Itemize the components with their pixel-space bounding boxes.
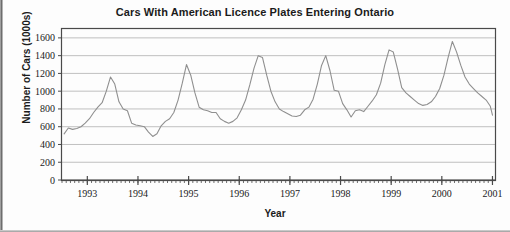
- gridlines-group: [62, 38, 495, 162]
- y-tick-label: 1600: [35, 32, 55, 43]
- y-tick-label: 600: [40, 121, 55, 132]
- x-tick-label: 1998: [331, 188, 351, 199]
- screenshot-root: Cars With American Licence Plates Enteri…: [0, 0, 510, 232]
- x-tick-label: 1994: [128, 188, 148, 199]
- y-tick-label: 1000: [35, 86, 55, 97]
- x-tick-label: 1996: [229, 188, 249, 199]
- y-tick-label: 200: [40, 157, 55, 168]
- plot-area: 02004006008001000120014001600 1993199419…: [0, 0, 510, 232]
- x-tick-label: 1995: [179, 188, 199, 199]
- x-tick-label: 1997: [280, 188, 300, 199]
- y-tick-label: 1400: [35, 50, 55, 61]
- chart-figure: Number of Cars (1000s) Year 020040060080…: [0, 0, 510, 232]
- x-axis-ticks: 199319941995199619971998199920002001: [62, 176, 502, 199]
- x-tick-label: 1999: [381, 188, 401, 199]
- y-tick-label: 800: [40, 103, 55, 114]
- y-axis-ticks: 02004006008001000120014001600: [35, 32, 62, 185]
- x-tick-label: 1993: [77, 188, 97, 199]
- y-tick-label: 1200: [35, 68, 55, 79]
- plot-frame-border: [62, 29, 496, 181]
- y-tick-label: 0: [50, 175, 55, 186]
- y-axis-label: Number of Cars (1000s): [21, 0, 32, 138]
- x-tick-label: 2000: [432, 188, 452, 199]
- x-tick-label: 2001: [482, 188, 502, 199]
- x-axis-label: Year: [60, 208, 490, 219]
- y-tick-label: 400: [40, 139, 55, 150]
